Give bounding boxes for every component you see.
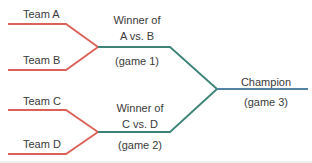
team-c-line — [8, 110, 98, 132]
tournament-bracket-diagram: Team A Team B Winner of A vs. B (game 1)… — [0, 0, 312, 163]
team-c-label: Team C — [23, 95, 61, 108]
semifinal-1-winner-label: Winner of A vs. B — [100, 12, 174, 44]
semifinal-1-game-label: (game 1) — [100, 53, 174, 69]
semifinal-1-winner-line1: Winner of — [100, 12, 174, 28]
semifinal-2-winner-line1: Winner of — [103, 100, 177, 116]
champion-label: Champion — [231, 74, 301, 90]
semifinal-2-winner-line2: C vs. D — [103, 116, 177, 132]
final-game-label: (game 3) — [231, 94, 301, 110]
team-a-line — [8, 24, 98, 47]
semifinal-1-winner-line2: A vs. B — [100, 28, 174, 44]
semifinal-2-game-label: (game 2) — [103, 137, 177, 153]
team-b-label: Team B — [23, 54, 60, 67]
semifinal-2-winner-label: Winner of C vs. D — [103, 100, 177, 132]
team-a-label: Team A — [23, 8, 60, 21]
team-d-label: Team D — [23, 138, 61, 151]
